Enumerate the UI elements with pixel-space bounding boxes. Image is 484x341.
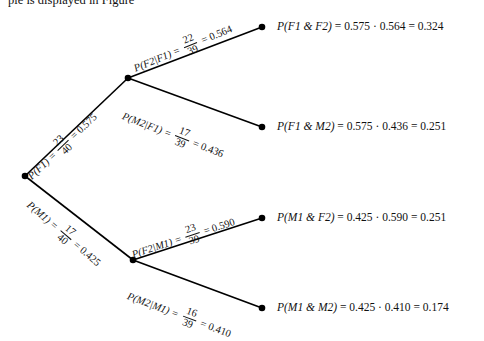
- tree-node-f1: [125, 75, 132, 82]
- result-event: P(F1 & M2): [277, 120, 334, 132]
- result-res-f1-f2: P(F1 & F2) = 0.575 · 0.564 = 0.324: [277, 20, 444, 32]
- result-res-m1-m2: P(M1 & M2) = 0.425 · 0.410 = 0.174: [277, 301, 449, 313]
- result-computation: = 0.425 · 0.410 = 0.174: [337, 301, 449, 313]
- tree-node-leaf4: [259, 305, 266, 312]
- figure-canvas: ple is displayed in Figure P(F1) = 2340 …: [0, 0, 484, 341]
- result-computation: = 0.425 · 0.590 = 0.251: [334, 211, 446, 223]
- result-event: P(M1 & M2): [277, 301, 337, 313]
- tree-node-leaf3: [259, 215, 266, 222]
- result-computation: = 0.575 · 0.436 = 0.251: [334, 120, 446, 132]
- result-event: P(F1 & F2): [277, 20, 332, 32]
- result-computation: = 0.575 · 0.564 = 0.324: [332, 20, 444, 32]
- tree-node-leaf1: [259, 24, 266, 31]
- tree-edges-and-nodes: [0, 0, 484, 341]
- result-res-f1-m2: P(F1 & M2) = 0.575 · 0.436 = 0.251: [277, 120, 446, 132]
- result-res-m1-f2: P(M1 & F2) = 0.425 · 0.590 = 0.251: [277, 211, 446, 223]
- tree-node-leaf2: [259, 124, 266, 131]
- result-event: P(M1 & F2): [277, 211, 334, 223]
